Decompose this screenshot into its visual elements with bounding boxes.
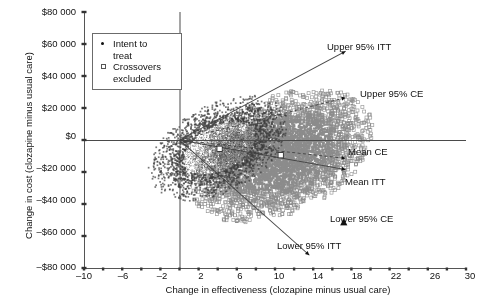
y-axis-title: Change in cost (clozapine minus usual ca… — [23, 26, 34, 266]
y-tick-label-20000: $20 000 — [8, 103, 76, 114]
legend-label-itt: Intent to treat — [113, 38, 147, 61]
y-tick-label-0: $0 — [8, 131, 76, 142]
annotation-mean-itt: Mean ITT — [345, 176, 386, 187]
y-tick-label-40000: $40 000 — [8, 71, 76, 82]
x-axis-title: Change in effectiveness (clozapine minus… — [84, 284, 472, 295]
x-tick-label-30: 30 — [440, 271, 479, 282]
annotation-mean-ce: Mean CE — [348, 146, 388, 157]
y-tick-label-60000: $60 000 — [8, 39, 76, 50]
annotation-lower-95-itt: Lower 95% ITT — [277, 240, 341, 251]
annotation-lower-95-ce: Lower 95% CE — [330, 213, 393, 224]
y-tick-label-80000: $80 000 — [8, 7, 76, 18]
legend-label-ce: Crossovers excluded — [113, 61, 161, 84]
legend-box: Intent to treat Crossovers excluded — [92, 33, 182, 90]
y-tick-label-neg40000: –$40 000 — [8, 195, 76, 206]
annotation-upper-95-ce: Upper 95% CE — [360, 88, 423, 99]
legend-dot-icon — [101, 42, 104, 45]
annotation-upper-95-itt: Upper 95% ITT — [327, 41, 391, 52]
y-tick-label-neg60000: –$60 000 — [8, 227, 76, 238]
y-tick-label-neg20000: –$20 000 — [8, 163, 76, 174]
legend-open-square-icon — [101, 64, 106, 69]
